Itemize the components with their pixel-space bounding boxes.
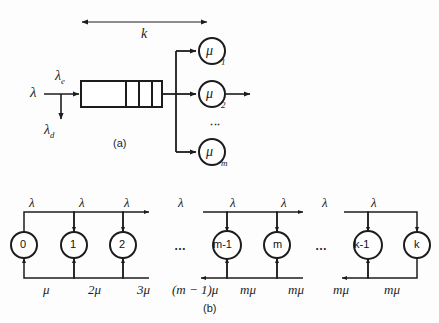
death-rate-label-3: 3μ [137, 283, 150, 296]
death-rate-label-8: mμ [384, 283, 400, 296]
death-arc-m1-out [201, 258, 227, 278]
server-symbol-m: μ [206, 144, 213, 159]
chain-ellipsis-icon-right: … [315, 240, 328, 252]
server-label-2: μ [206, 87, 213, 101]
state-label-k: k [414, 239, 420, 250]
state-label-m-1: m-1 [213, 239, 232, 250]
server-subscript-2: 2 [221, 101, 226, 110]
birth-rate-label-6: λ [281, 196, 287, 209]
death-rate-label-5: mμ [240, 283, 256, 296]
birth-arc-1-2 [74, 212, 123, 232]
capacity-label: k [141, 27, 147, 41]
panel-b-caption: (b) [203, 303, 216, 314]
birth-arc-m1-m [227, 212, 277, 232]
birth-arc-in-k1 [344, 212, 368, 232]
birth-rate-label-4: λ [178, 196, 184, 209]
birth-arc-k1-k [368, 212, 417, 232]
state-label-1: 1 [70, 239, 76, 250]
birth-arc-0-1 [24, 212, 74, 232]
state-label-m: m [273, 239, 282, 250]
effective-arrival-label: λe [55, 69, 65, 85]
death-rate-label-7: mμ [333, 283, 349, 296]
birth-rate-label-7: λ [322, 196, 328, 209]
effective-arrival-subscript: e [61, 76, 65, 86]
server-vertical-ellipsis-icon: ⋮ [209, 119, 220, 131]
panel-a-graphics [44, 22, 250, 165]
panel-a-caption: (a) [113, 138, 126, 149]
birth-rate-label-3: λ [124, 196, 130, 209]
queue-buffer [81, 81, 162, 107]
birth-arc-2-out [123, 212, 149, 232]
birth-arc-in-m1 [203, 212, 227, 232]
server-symbol-1: μ [206, 43, 213, 58]
dropped-rate-label: λd [44, 123, 54, 139]
death-arc-m-m1 [227, 258, 277, 278]
birth-rate-label-2: λ [79, 196, 85, 209]
death-arc-1-0 [24, 258, 74, 278]
death-rate-label-4: (m − 1)μ [172, 283, 218, 296]
death-rate-label-6: mμ [288, 283, 304, 296]
birth-rate-label-1: λ [29, 196, 35, 209]
birth-rate-label-5: λ [230, 196, 236, 209]
server-subscript-m: m [221, 159, 228, 168]
server-distributor [162, 51, 196, 152]
chain-ellipsis-icon-left: … [174, 240, 187, 252]
death-arc-k1-out [342, 258, 368, 278]
server-symbol-2: μ [206, 86, 213, 101]
birth-rate-label-8: λ [371, 196, 377, 209]
birth-arc-m-out [277, 212, 303, 232]
death-arc-in-2 [123, 258, 149, 278]
figure-drawing [0, 0, 439, 323]
arrival-rate-label: λ [30, 85, 37, 100]
death-rate-label-1: μ [43, 283, 50, 296]
death-arc-k-k1 [368, 258, 417, 278]
death-arc-2-1 [74, 258, 123, 278]
server-label-m: μ [206, 145, 213, 159]
figure-container: k λ λe λd μ 1 μ 2 μ m ⋮ (a) 0 1 2 m-1 m … [0, 0, 439, 323]
dropped-rate-subscript: d [50, 130, 54, 140]
state-label-2: 2 [119, 239, 125, 250]
death-rate-label-2: 2μ [88, 283, 101, 296]
server-label-1: μ [206, 44, 213, 58]
state-label-k-1: k-1 [354, 239, 369, 250]
state-label-0: 0 [20, 239, 26, 250]
death-arc-in-m [277, 258, 303, 278]
server-subscript-1: 1 [221, 58, 226, 67]
